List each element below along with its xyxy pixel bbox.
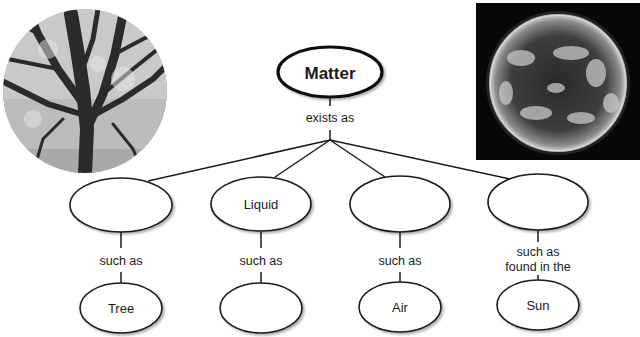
link-label-3: such as [378,254,421,268]
root-node: Matter [278,47,382,97]
example-node-4[interactable]: Sun [497,280,579,330]
link-label-1: such as [99,254,142,268]
state-node-3[interactable] [350,176,450,232]
example-node-1[interactable]: Tree [80,283,162,333]
example-label-4: Sun [526,298,549,313]
state-node-1[interactable] [70,178,172,232]
branch-line-4 [330,140,510,179]
concept-map: Matter exists as Liquid such as such as … [0,0,640,337]
example-node-2[interactable] [220,283,302,333]
example-label-1: Tree [108,301,134,316]
link-label-2: such as [239,254,282,268]
branch-line-1 [148,140,330,181]
root-link-label: exists as [306,111,355,125]
connector-lines [121,98,538,283]
state-node-2[interactable]: Liquid [211,177,311,231]
link-label-4-line1: such as [516,245,559,259]
example-label-3: Air [392,300,409,315]
root-label: Matter [304,64,355,83]
state-label-2: Liquid [244,197,279,212]
example-node-3[interactable]: Air [359,282,441,332]
link-label-4-line2: found in the [505,260,570,274]
state-node-4[interactable] [488,174,588,230]
